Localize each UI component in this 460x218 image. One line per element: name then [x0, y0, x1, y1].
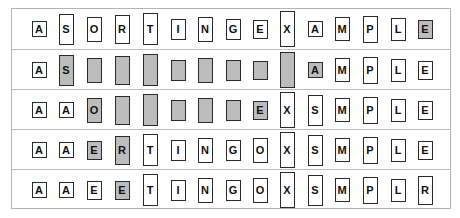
key-label: G: [229, 144, 238, 156]
key-box: N: [198, 178, 213, 203]
key-box: O: [87, 98, 102, 123]
key-label: S: [311, 144, 318, 156]
key-box: A: [308, 21, 323, 37]
key-label: M: [337, 144, 346, 156]
key-box: [280, 52, 295, 88]
key-box: S: [308, 175, 323, 206]
key-box: [198, 58, 213, 83]
key-label: E: [90, 184, 97, 196]
key-label: S: [62, 64, 69, 76]
key-label: P: [366, 64, 373, 76]
key-label: L: [395, 64, 402, 76]
key-box: T: [143, 134, 158, 166]
key-label: X: [283, 184, 290, 196]
key-box: A: [59, 102, 74, 118]
key-label: L: [395, 144, 402, 156]
key-label: G: [229, 184, 238, 196]
key-label: I: [176, 184, 179, 196]
key-box: [87, 58, 102, 83]
key-label: A: [35, 23, 43, 35]
key-label: A: [35, 184, 43, 196]
key-label: A: [35, 104, 43, 116]
key-label: O: [90, 23, 99, 35]
key-label: E: [421, 144, 428, 156]
key-box: [226, 60, 241, 81]
key-box: N: [198, 138, 213, 163]
key-box: A: [59, 142, 74, 158]
key-box: T: [143, 13, 158, 45]
key-box: L: [391, 18, 406, 41]
key-box: G: [226, 140, 241, 161]
key-label: L: [395, 104, 402, 116]
key-box: R: [115, 15, 130, 44]
trace-row: ASAMPLE: [12, 49, 450, 90]
key-label: A: [62, 104, 70, 116]
key-box: A: [32, 142, 47, 158]
key-box: M: [335, 98, 350, 122]
trace-row: AAERTINGOXSMPLE: [12, 129, 450, 170]
key-box: N: [198, 17, 213, 42]
key-box: P: [363, 177, 378, 204]
key-box: M: [335, 58, 350, 82]
key-box: [226, 100, 241, 121]
key-label: N: [201, 144, 209, 156]
key-box: O: [253, 138, 268, 163]
key-box: G: [226, 180, 241, 201]
key-label: X: [283, 104, 290, 116]
key-box: S: [308, 95, 323, 126]
key-box: P: [363, 137, 378, 164]
key-label: E: [421, 64, 428, 76]
key-box: I: [171, 180, 186, 201]
key-label: T: [147, 23, 154, 35]
key-box: R: [115, 136, 130, 165]
key-box: X: [280, 92, 295, 128]
key-label: X: [283, 144, 290, 156]
key-box: M: [335, 138, 350, 162]
key-box: L: [391, 179, 406, 202]
key-label: N: [201, 184, 209, 196]
key-box: E: [87, 181, 102, 200]
key-label: P: [366, 144, 373, 156]
key-label: P: [366, 23, 373, 35]
key-label: E: [256, 104, 263, 116]
key-box: X: [280, 132, 295, 168]
key-label: E: [90, 144, 97, 156]
key-box: M: [335, 178, 350, 202]
key-label: M: [337, 64, 346, 76]
key-box: L: [391, 99, 406, 122]
key-box: A: [59, 182, 74, 198]
key-label: S: [62, 23, 69, 35]
key-label: E: [118, 184, 125, 196]
diagram-frame: ASORTINGEXAMPLEASAMPLEAAOEXSMPLEAAERTING…: [11, 8, 451, 209]
key-label: R: [118, 23, 126, 35]
key-label: S: [311, 184, 318, 196]
key-box: E: [253, 20, 268, 39]
key-label: M: [337, 104, 346, 116]
key-box: E: [87, 141, 102, 160]
key-box: O: [87, 17, 102, 42]
key-label: T: [147, 144, 154, 156]
trace-row: ASORTINGEXAMPLE: [12, 9, 450, 49]
key-label: A: [35, 64, 43, 76]
key-label: R: [118, 144, 126, 156]
key-label: N: [201, 23, 209, 35]
key-label: O: [256, 184, 265, 196]
key-label: E: [256, 23, 263, 35]
key-label: T: [147, 184, 154, 196]
key-label: L: [395, 23, 402, 35]
key-label: I: [176, 23, 179, 35]
key-box: A: [32, 62, 47, 78]
key-label: P: [366, 104, 373, 116]
key-box: [115, 56, 130, 85]
key-box: [115, 96, 130, 125]
key-label: A: [35, 144, 43, 156]
key-box: E: [253, 101, 268, 120]
key-label: I: [176, 144, 179, 156]
key-box: E: [418, 61, 433, 80]
key-box: S: [308, 135, 323, 166]
key-label: M: [337, 23, 346, 35]
trace-row: AAEETINGOXSMPLR: [12, 169, 450, 210]
key-box: E: [418, 101, 433, 120]
key-box: L: [391, 139, 406, 162]
key-box: I: [171, 19, 186, 40]
